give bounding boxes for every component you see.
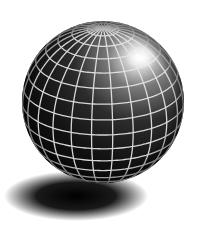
globe-illustration [0,0,199,229]
sphere [22,21,184,183]
